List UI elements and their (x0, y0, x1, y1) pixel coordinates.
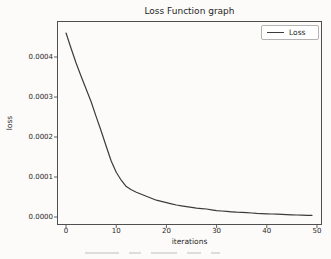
cropped-caption-fragment (85, 252, 220, 255)
y-tick-label: 0.0001 (18, 172, 53, 182)
x-axis-label: iterations (57, 237, 322, 246)
y-tick-label: 0.0003 (18, 92, 53, 102)
x-tick-label: 50 (302, 227, 331, 236)
figure: Loss Function graph loss 0.00000.00010.0… (0, 0, 331, 259)
legend-label: Loss (289, 29, 305, 37)
legend-line-swatch (267, 32, 284, 34)
legend: Loss (261, 25, 319, 40)
y-tick-label: 0.0000 (18, 212, 53, 222)
axes-spines (58, 22, 322, 225)
x-tick-label: 10 (101, 227, 131, 236)
x-tick-label: 30 (202, 227, 232, 236)
y-tick-label: 0.0002 (18, 132, 53, 142)
loss-curve (66, 33, 312, 215)
x-tick-label: 20 (151, 227, 181, 236)
x-tick-label: 0 (51, 227, 81, 236)
x-tick-label: 40 (252, 227, 282, 236)
y-tick-label: 0.0004 (18, 52, 53, 62)
